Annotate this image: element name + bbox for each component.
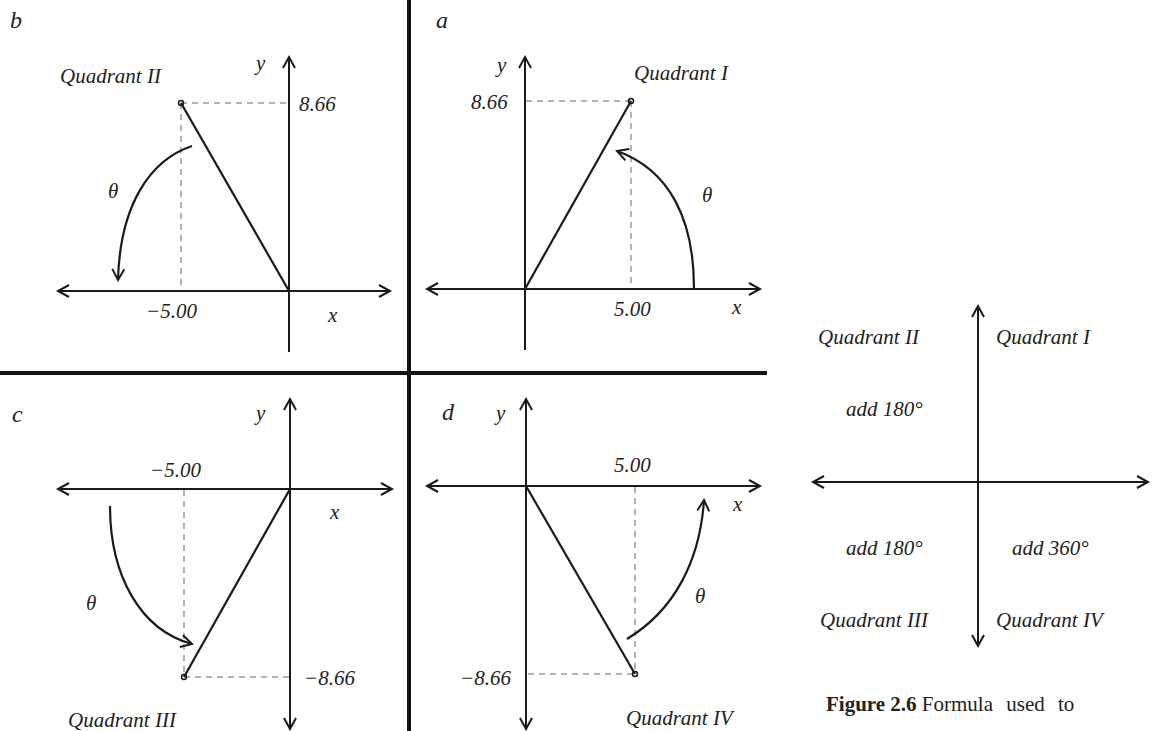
figure-canvas: b Quadrant II y 8.66 −5.00 x θ a y Quadr…: [0, 0, 1158, 731]
quadrant-label: Quadrant IV: [626, 706, 735, 730]
figure-number: Figure 2.6: [826, 692, 917, 716]
panel-letter-c: c: [12, 401, 23, 427]
panel-a: a y Quadrant I 8.66 5.00 x θ: [427, 7, 760, 350]
panel-c: c y −5.00 x θ −8.66 Quadrant III: [12, 399, 392, 731]
y-value-label: −8.66: [304, 666, 355, 690]
y-axis-label: y: [495, 53, 507, 77]
y-value-label: −8.66: [460, 666, 511, 690]
panel-b: b Quadrant II y 8.66 −5.00 x θ: [10, 7, 390, 352]
vector-line: [526, 486, 635, 674]
y-axis-label: y: [254, 401, 266, 425]
quadrant-II-label: Quadrant II: [818, 325, 920, 349]
x-axis-label: x: [731, 295, 742, 319]
panel-letter-b: b: [10, 7, 22, 33]
quadrant-IV-label: Quadrant IV: [996, 608, 1105, 632]
figure-caption: Figure 2.6 Formula used to: [826, 692, 1156, 717]
angle-theta-label: θ: [702, 183, 712, 207]
quadrant-rules-diagram: Quadrant II Quadrant I add 180° add 180°…: [813, 306, 1148, 646]
panel-letter-d: d: [442, 399, 455, 425]
x-value-label: 5.00: [614, 297, 651, 321]
y-axis-label: y: [494, 401, 506, 425]
angle-theta-label: θ: [695, 584, 705, 608]
rule-quadrant-III: add 180°: [846, 536, 923, 560]
quadrant-label: Quadrant II: [60, 64, 162, 88]
y-axis-label: y: [254, 51, 266, 75]
quadrant-I-label: Quadrant I: [996, 325, 1091, 349]
caption-text: Formula used to: [922, 692, 1075, 716]
rule-quadrant-IV: add 360°: [1012, 536, 1089, 560]
rule-quadrant-II: add 180°: [846, 397, 923, 421]
y-value-label: 8.66: [471, 90, 508, 114]
angle-arc-arrow-icon: [110, 506, 192, 644]
panel-letter-a: a: [436, 7, 448, 33]
x-axis-label: x: [327, 303, 338, 327]
panel-d: d y 5.00 x θ −8.66 Quadrant IV: [427, 399, 760, 730]
quadrant-label: Quadrant III: [68, 708, 177, 731]
quadrant-label: Quadrant I: [634, 61, 729, 85]
vector-line: [525, 101, 631, 289]
angle-arc-arrow-icon: [627, 500, 704, 639]
x-value-label: −5.00: [146, 299, 197, 323]
x-axis-label: x: [732, 492, 743, 516]
angle-theta-label: θ: [86, 591, 96, 615]
y-value-label: 8.66: [299, 92, 336, 116]
angle-arc-arrow-icon: [617, 151, 694, 288]
angle-theta-label: θ: [108, 179, 118, 203]
vector-line: [184, 489, 290, 677]
x-axis-label: x: [329, 500, 340, 524]
x-value-label: −5.00: [150, 458, 201, 482]
vector-line: [181, 103, 289, 291]
quadrant-III-label: Quadrant III: [820, 608, 929, 632]
x-value-label: 5.00: [614, 453, 651, 477]
